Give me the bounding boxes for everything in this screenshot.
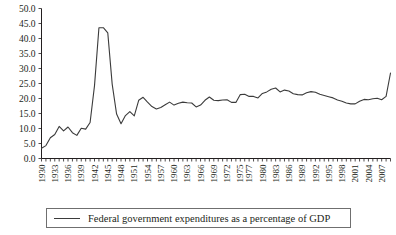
legend-line-swatch [54,218,80,219]
chart-legend: Federal government expenditures as a per… [46,208,351,228]
x-tick-label: 1989 [297,164,307,183]
data-series-line [42,28,391,149]
y-tick-label: 10.0 [19,124,36,134]
x-tick-label: 1954 [143,164,153,183]
x-tick-label: 1966 [196,164,206,183]
x-tick-label: 1936 [63,164,73,183]
x-tick-label: 1972 [222,165,232,183]
y-tick-label: 50.0 [19,4,36,14]
x-tick-label: 1945 [103,164,113,183]
y-tick-label: 0.0 [24,154,36,164]
y-tick-label: 40.0 [19,34,36,44]
y-tick-label: 5.0 [24,139,36,149]
x-tick-label: 2004 [364,164,374,183]
x-tick-label: 1948 [116,164,126,183]
x-tick-label: 1939 [76,164,86,183]
x-tick-label: 1963 [182,164,192,183]
x-tick-label: 1992 [311,165,321,183]
y-tick-label: 25.0 [19,79,36,89]
x-tick-label: 1930 [37,164,47,183]
y-tick-label: 45.0 [19,19,36,29]
x-tick-label: 1983 [271,164,281,183]
y-tick-label: 15.0 [19,109,36,119]
x-tick-label: 1957 [156,164,166,183]
chart-container: 0.05.010.015.020.025.030.035.040.045.050… [0,0,396,235]
x-tick-label: 1960 [169,164,179,183]
x-tick-label: 1995 [324,164,334,183]
x-tick-label: 1933 [50,164,60,183]
x-tick-label: 2001 [350,165,360,183]
x-tick-label: 1942 [90,165,100,183]
x-tick-label: 1986 [284,164,294,183]
x-tick-label: 1998 [337,164,347,183]
x-tick-label: 1980 [258,164,268,183]
y-tick-label: 30.0 [19,64,36,74]
line-chart-plot: 0.05.010.015.020.025.030.035.040.045.050… [0,0,396,235]
y-tick-label: 20.0 [19,94,36,104]
x-tick-label: 2007 [377,164,387,183]
y-axis-tick-labels: 0.05.010.015.020.025.030.035.040.045.050… [19,4,36,164]
x-tick-label: 1969 [209,164,219,183]
x-tick-label: 1977 [244,164,254,183]
y-tick-label: 35.0 [19,49,36,59]
x-axis-tick-labels: 1930193319361939194219451948195119541957… [37,164,387,183]
legend-entry-label: Federal government expenditures as a per… [88,213,330,224]
x-tick-label: 1951 [129,165,139,183]
